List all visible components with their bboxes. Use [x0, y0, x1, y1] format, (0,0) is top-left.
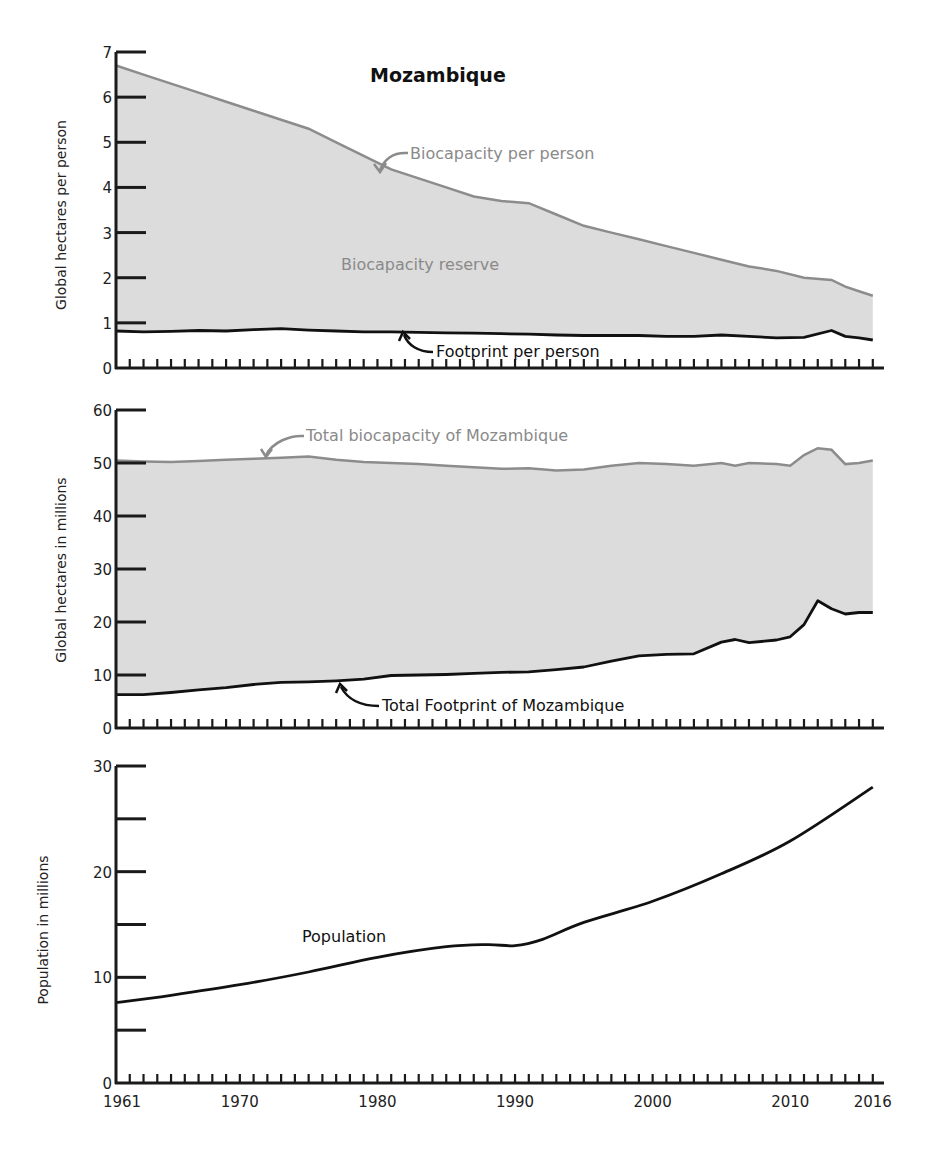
- panel-totals: 0102030405060 Total biocapacity of Mozam…: [53, 402, 884, 738]
- y-tick-label: 3: [102, 225, 112, 243]
- mozambique-ecological-footprint-figure: 01234567 Mozambique Biocapacity per pers…: [0, 0, 933, 1152]
- y-tick-label: 1: [102, 315, 112, 333]
- x-tick-label: 1990: [496, 1093, 534, 1111]
- y-axis-label-middle: Global hectares in millions: [53, 477, 69, 662]
- panel-per-person: 01234567 Mozambique Biocapacity per pers…: [53, 44, 884, 378]
- y-axis-label-top: Global hectares per person: [53, 120, 69, 310]
- y-tick-label: 20: [93, 614, 112, 632]
- y-tick-label: 30: [93, 758, 112, 776]
- biocapacity-per-person-label: Biocapacity per person: [410, 144, 594, 163]
- y-tick-label: 50: [93, 455, 112, 473]
- population-label: Population: [302, 927, 386, 946]
- y-tick-label: 10: [93, 969, 112, 987]
- x-tick-label: 2016: [854, 1093, 892, 1111]
- x-tick-label: 2000: [634, 1093, 672, 1111]
- bottom-y-axis: 0102030: [93, 758, 884, 1093]
- x-tick-label: 2010: [771, 1093, 809, 1111]
- x-tick-label: 1970: [221, 1093, 259, 1111]
- y-axis-label-bottom: Population in millions: [35, 855, 51, 1004]
- y-tick-label: 7: [102, 44, 112, 62]
- y-tick-label: 40: [93, 508, 112, 526]
- footprint-per-person-label: Footprint per person: [436, 342, 600, 361]
- chart-title: Mozambique: [370, 64, 506, 86]
- population-line: [116, 787, 873, 1003]
- panel-population: 0102030 Population Population in million…: [35, 758, 892, 1111]
- x-tick-label: 1961: [103, 1093, 141, 1111]
- total-reserve-area: [116, 448, 873, 694]
- total-biocapacity-arrow-icon: [266, 436, 304, 455]
- y-tick-label: 0: [102, 1075, 112, 1093]
- x-tick-label: 1980: [358, 1093, 396, 1111]
- y-tick-label: 4: [102, 179, 112, 197]
- y-tick-label: 20: [93, 864, 112, 882]
- y-tick-label: 60: [93, 402, 112, 420]
- biocapacity-reserve-label: Biocapacity reserve: [341, 255, 499, 274]
- x-axis-year-labels: 1961197019801990200020102016: [103, 1093, 892, 1111]
- biocapacity-reserve-area: [116, 66, 873, 341]
- total-footprint-label: Total Footprint of Mozambique: [381, 696, 624, 715]
- y-tick-label: 10: [93, 667, 112, 685]
- y-tick-label: 6: [102, 89, 112, 107]
- y-tick-label: 5: [102, 134, 112, 152]
- y-tick-label: 0: [102, 720, 112, 738]
- total-biocapacity-label: Total biocapacity of Mozambique: [305, 426, 568, 445]
- y-tick-label: 0: [102, 360, 112, 378]
- y-tick-label: 30: [93, 561, 112, 579]
- y-tick-label: 2: [102, 270, 112, 288]
